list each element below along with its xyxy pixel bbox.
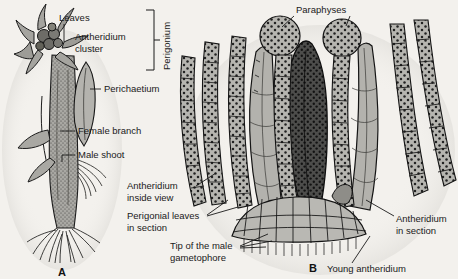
- label-antheridium-inside-view-line1: Antheridium: [127, 180, 178, 191]
- label-perichaetium: Perichaetium: [104, 83, 160, 94]
- label-young-antheridium: Young antheridium: [327, 263, 406, 274]
- label-antheridium-cluster-line2: cluster: [75, 43, 103, 54]
- label-leaves: Leaves: [59, 12, 90, 23]
- panel-b-letter: B: [309, 262, 317, 274]
- label-perigonial-leaves-line2: in section: [127, 222, 167, 233]
- label-antheridium-in-section-line1: Antheridium: [396, 213, 447, 224]
- label-perigonium: Perigonium: [161, 22, 172, 70]
- label-paraphyses: Paraphyses: [296, 4, 346, 15]
- panel-a-letter: A: [58, 266, 66, 278]
- main-stem: [49, 55, 78, 228]
- label-tip-of-male-gametophore-line2: gametophore: [170, 252, 226, 263]
- label-antheridium-inside-view-line2: inside view: [127, 192, 174, 203]
- label-female-branch: Female branch: [78, 125, 141, 136]
- label-antheridium-cluster-line1: Antheridium: [75, 31, 126, 42]
- label-tip-of-male-gametophore-line1: Tip of the male: [170, 240, 232, 251]
- figure-canvas: A Leaves Antheridium cluster Perigonium …: [0, 0, 458, 279]
- label-perigonial-leaves-line1: Perigonial leaves: [127, 210, 200, 221]
- label-antheridium-in-section-line2: in section: [396, 225, 436, 236]
- label-male-shoot: Male shoot: [78, 149, 125, 160]
